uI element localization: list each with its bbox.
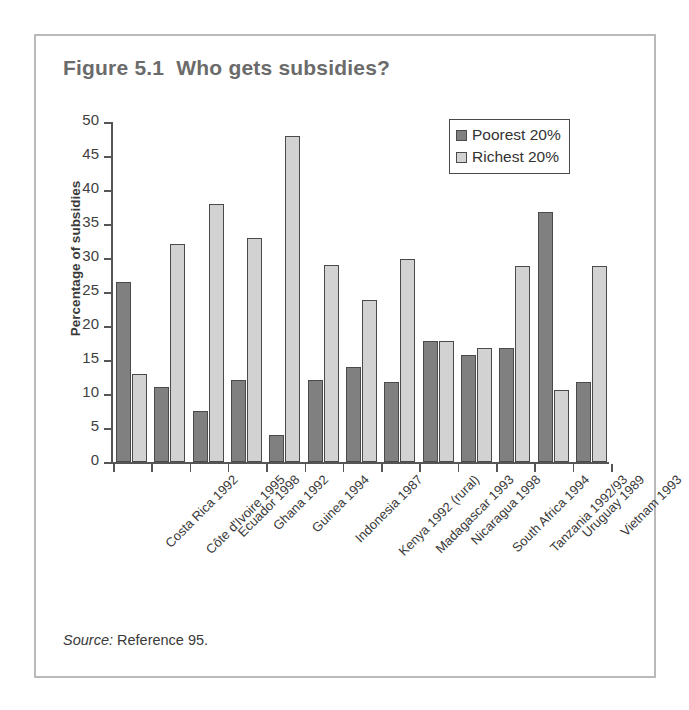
bar-richest <box>400 259 415 462</box>
page-title: Figure 5.1 Who gets subsidies? <box>63 56 390 80</box>
bar-group <box>346 120 378 462</box>
bar-richest <box>439 341 454 462</box>
x-tick <box>151 464 153 472</box>
figure-page: Figure 5.1 Who gets subsidies? Percentag… <box>0 0 689 710</box>
bar-richest <box>285 136 300 462</box>
bar-poorest <box>499 348 514 462</box>
legend-label: Poorest 20% <box>472 126 561 144</box>
x-tick <box>611 464 613 472</box>
bar-group <box>193 120 225 462</box>
bar-richest <box>592 266 607 462</box>
bar-poorest <box>154 387 169 462</box>
bar-richest <box>209 204 224 462</box>
bar-poorest <box>384 382 399 462</box>
x-tick <box>458 464 460 472</box>
bar-group <box>154 120 186 462</box>
y-tick-label: 10 <box>82 383 99 400</box>
x-tick <box>496 464 498 472</box>
y-tick-label: 45 <box>82 145 99 162</box>
y-tick: 25 <box>104 292 111 294</box>
y-tick-label: 50 <box>82 111 99 128</box>
bar-richest <box>247 238 262 462</box>
bar-poorest <box>423 341 438 462</box>
x-tick <box>266 464 268 472</box>
y-axis-line <box>111 122 113 464</box>
y-tick: 0 <box>104 462 111 464</box>
y-tick-label: 30 <box>82 247 99 264</box>
x-tick <box>343 464 345 472</box>
x-tick <box>228 464 230 472</box>
bar-group <box>576 120 608 462</box>
y-tick-label: 0 <box>91 451 99 468</box>
x-tick <box>573 464 575 472</box>
bar-poorest <box>231 380 246 462</box>
figure-frame: Figure 5.1 Who gets subsidies? Percentag… <box>34 34 656 678</box>
y-tick-label: 5 <box>91 417 99 434</box>
x-tick <box>381 464 383 472</box>
chart-legend: Poorest 20%Richest 20% <box>449 119 570 174</box>
legend-label: Richest 20% <box>472 148 559 166</box>
source-note: Source: Reference 95. <box>63 632 208 648</box>
y-tick: 50 <box>104 122 111 124</box>
bar-group <box>269 120 301 462</box>
source-value: Reference 95. <box>113 632 208 648</box>
bar-richest <box>477 348 492 462</box>
y-tick: 45 <box>104 156 111 158</box>
y-tick: 15 <box>104 360 111 362</box>
y-tick-label: 35 <box>82 213 99 230</box>
y-tick: 10 <box>104 394 111 396</box>
x-tick <box>534 464 536 472</box>
bar-poorest <box>461 355 476 462</box>
bar-poorest <box>308 380 323 462</box>
y-tick-label: 15 <box>82 349 99 366</box>
y-tick: 35 <box>104 224 111 226</box>
y-axis-title: Percentage of subsidies <box>68 144 83 374</box>
bar-richest <box>170 244 185 462</box>
bar-poorest <box>269 435 284 462</box>
x-tick <box>419 464 421 472</box>
x-tick <box>305 464 307 472</box>
bar-poorest <box>116 282 131 462</box>
x-tick <box>113 464 115 472</box>
bar-group <box>308 120 340 462</box>
y-tick: 40 <box>104 190 111 192</box>
bar-poorest <box>346 367 361 462</box>
legend-swatch-icon <box>456 152 467 163</box>
bar-group <box>384 120 416 462</box>
bar-richest <box>515 266 530 462</box>
legend-swatch-icon <box>456 130 467 141</box>
y-tick: 30 <box>104 258 111 260</box>
bar-group <box>231 120 263 462</box>
y-tick: 5 <box>104 428 111 430</box>
bar-richest <box>362 300 377 462</box>
bar-richest <box>554 390 569 462</box>
bar-poorest <box>538 212 553 462</box>
legend-item: Poorest 20% <box>456 124 561 146</box>
bar-richest <box>132 374 147 462</box>
y-tick-label: 40 <box>82 179 99 196</box>
bar-poorest <box>576 382 591 462</box>
bar-group <box>116 120 148 462</box>
y-tick-label: 25 <box>82 281 99 298</box>
y-tick: 20 <box>104 326 111 328</box>
legend-item: Richest 20% <box>456 146 561 168</box>
x-tick <box>190 464 192 472</box>
bar-richest <box>324 265 339 462</box>
y-tick-label: 20 <box>82 315 99 332</box>
bar-poorest <box>193 411 208 462</box>
source-label: Source: <box>63 632 113 648</box>
